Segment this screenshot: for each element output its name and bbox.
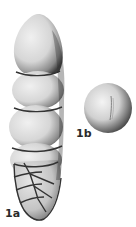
biserial-base [14,160,61,221]
fossil-plate: 1a 1b [0,0,136,227]
fossil-illustration [0,0,136,227]
figure-label-1a: 1a [5,208,20,219]
figure-1a [9,14,65,221]
figure-label-1b: 1b [76,128,92,139]
figure-1b [84,83,132,133]
chamber-2 [12,71,64,109]
apertural-sphere [84,83,132,133]
